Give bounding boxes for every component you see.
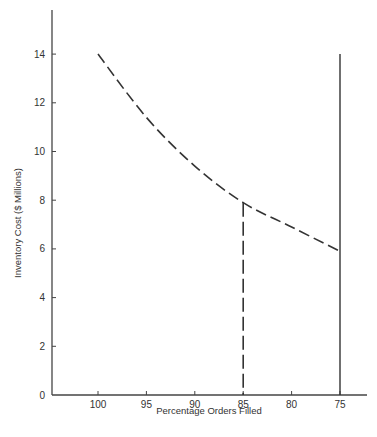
x-axis-title: Percentage Orders Filled <box>156 405 262 416</box>
axes <box>52 10 367 395</box>
y-tick-label: 8 <box>39 195 45 206</box>
y-tick-label: 14 <box>34 49 46 60</box>
y-tick-label: 12 <box>34 97 46 108</box>
x-tick-label: 80 <box>286 399 298 410</box>
chart: 02468101214 1009590858075 Percentage Ord… <box>0 0 377 437</box>
y-tick-label: 0 <box>39 390 45 401</box>
reference-lines <box>243 54 340 395</box>
x-tick-label: 100 <box>90 399 107 410</box>
y-tick-label: 2 <box>39 341 45 352</box>
y-tick-label: 4 <box>39 292 45 303</box>
y-axis-ticks: 02468101214 <box>34 49 56 401</box>
inventory-cost-curve <box>98 54 340 251</box>
y-tick-label: 6 <box>39 243 45 254</box>
x-tick-label: 95 <box>141 399 153 410</box>
x-tick-label: 75 <box>334 399 346 410</box>
y-axis-title: Inventory Cost ($ Millions) <box>12 168 23 278</box>
y-tick-label: 10 <box>34 146 46 157</box>
